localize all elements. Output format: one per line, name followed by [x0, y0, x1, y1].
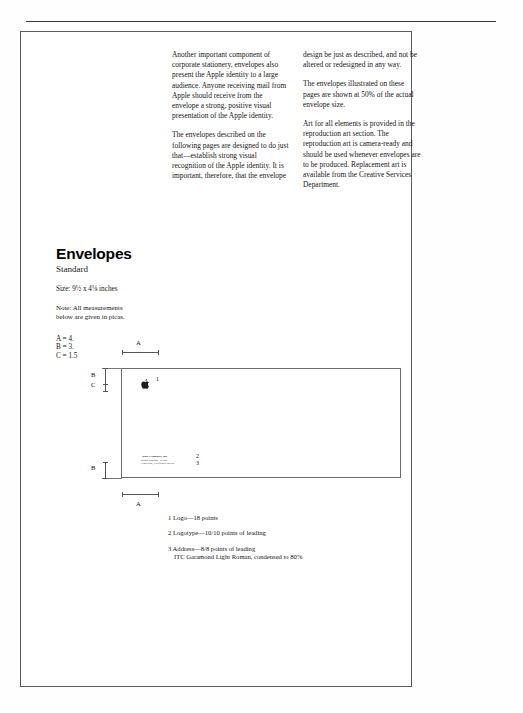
dimension-tick	[122, 492, 123, 497]
dimension-tick	[122, 350, 123, 355]
legend-number: 1	[168, 514, 171, 521]
body-column-left: Another important component of corporate…	[172, 50, 291, 181]
measurement-note: Note: All measurements below are given i…	[56, 304, 186, 321]
legend-item: 3 Address—8/8 points of leading ITC Gara…	[168, 545, 388, 562]
body-paragraph: Another important component of corporate…	[172, 50, 291, 121]
measurement-note-line-1: Note: All measurements	[56, 304, 123, 311]
dimension-label-b-bottom: B	[91, 464, 95, 471]
page-title: Envelopes	[56, 246, 186, 262]
dimension-label-b-top: B	[91, 371, 95, 378]
legend-item: 2 Logotype—10/10 points of leading	[168, 529, 388, 537]
body-paragraph: Art for all elements is provided in the …	[303, 119, 422, 190]
dimension-tick	[103, 462, 108, 463]
body-paragraph: design be just as described, and not be …	[303, 50, 422, 70]
measurement-note-line-2: below are given in picas.	[56, 313, 125, 320]
dimension-tick	[103, 368, 108, 369]
dimension-label-c: C	[91, 381, 95, 388]
legend-text: Address—8/8 points of leading	[173, 545, 256, 552]
dimension-line-b-bottom	[105, 462, 106, 478]
legend-text: Logo—18 points	[173, 514, 218, 521]
legend-text: Logotype—10/10 points of leading	[173, 529, 266, 536]
page-subtitle: Standard	[56, 264, 186, 275]
dimension-tick	[158, 350, 159, 355]
dimension-tick	[158, 492, 159, 497]
legend-item: 1 Logo—18 points	[168, 514, 388, 522]
dimension-tick	[103, 384, 108, 385]
dimension-line-c	[105, 384, 106, 391]
dimension-label-a-top: A	[136, 339, 141, 346]
body-paragraph: The envelopes illustrated on these pages…	[303, 79, 422, 110]
dimension-label-a-bottom: A	[136, 500, 141, 507]
dimension-line-a-top	[122, 352, 158, 353]
diagram-legend: 1 Logo—18 points 2 Logotype—10/10 points…	[168, 514, 388, 562]
body-column-right: design be just as described, and not be …	[303, 50, 422, 190]
callout-logo: 1	[156, 375, 159, 383]
legend-number: 3	[168, 545, 171, 552]
dimension-tick	[103, 478, 108, 479]
envelope-size-line: Size: 9½ x 4⅛ inches	[56, 285, 186, 294]
dimension-line-b-top	[105, 368, 106, 384]
top-horizontal-rule	[26, 21, 496, 22]
document-page: Another important component of corporate…	[0, 0, 523, 713]
body-text-columns: Another important component of corporate…	[172, 50, 422, 190]
body-paragraph: The envelopes described on the following…	[172, 130, 291, 181]
apple-logo-icon	[141, 375, 150, 385]
callout-logotype: 2	[196, 453, 199, 460]
legend-number: 2	[168, 529, 171, 536]
legend-subtext: ITC Garamond Light Roman, condensed to 8…	[168, 553, 388, 561]
dimension-line-a-bottom	[122, 494, 158, 495]
envelope-address-block: Apple Computer, Inc. 20525 Mariani Avenu…	[141, 455, 187, 466]
address-city: Cupertino, California 95014	[141, 462, 187, 466]
callout-address: 3	[196, 460, 199, 467]
dimension-tick	[103, 391, 108, 392]
